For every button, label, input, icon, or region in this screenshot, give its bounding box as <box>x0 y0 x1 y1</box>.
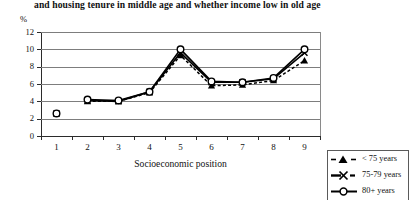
x-axis-tick <box>41 136 42 140</box>
y-axis-tick-label: 4 <box>12 97 34 106</box>
y-axis-tick <box>37 49 41 50</box>
legend-marker-x-icon <box>330 168 362 183</box>
legend-label-0: < 75 years <box>362 153 397 165</box>
x-axis-tick-label: 1 <box>45 142 69 152</box>
x-axis-tick <box>258 136 259 140</box>
data-point <box>301 57 308 63</box>
legend-marker-triangle-icon <box>330 152 362 167</box>
y-axis-tick-label: 12 <box>12 28 34 37</box>
plot-right-border <box>320 32 321 137</box>
y-axis-tick <box>37 101 41 102</box>
y-axis-tick-label: 10 <box>12 45 34 54</box>
y-axis-tick-label: 0 <box>12 132 34 141</box>
y-axis-tick <box>37 119 41 120</box>
chart-figure: and housing tenure in middle age and whe… <box>0 0 410 200</box>
legend-item-2[interactable]: 80+ years <box>328 184 408 199</box>
x-axis-tick-label: 4 <box>138 142 162 152</box>
x-axis-tick-label: 3 <box>107 142 131 152</box>
series-lines <box>41 32 320 136</box>
plot-area <box>41 32 320 136</box>
x-axis-tick <box>196 136 197 140</box>
data-point <box>115 97 122 104</box>
data-point <box>270 75 277 82</box>
y-axis-tick <box>37 32 41 33</box>
legend-label-1: 75-79 years <box>362 169 401 181</box>
x-axis-tick-label: 7 <box>231 142 255 152</box>
data-point <box>208 78 215 85</box>
x-axis-tick <box>227 136 228 140</box>
data-point <box>301 46 308 53</box>
figure-title: and housing tenure in middle age and whe… <box>34 0 404 11</box>
legend-item-0[interactable]: < 75 years <box>328 152 408 167</box>
x-axis-tick <box>103 136 104 140</box>
y-axis-tick <box>37 67 41 68</box>
x-axis-line <box>41 136 321 137</box>
data-point <box>53 110 60 117</box>
series-1 <box>54 50 308 117</box>
y-axis-tick-label: 8 <box>12 62 34 71</box>
y-axis-tick-label: 6 <box>12 80 34 89</box>
x-axis-tick <box>320 136 321 140</box>
legend: < 75 years 75-79 years 80+ years <box>327 150 409 200</box>
data-point <box>177 46 184 53</box>
y-axis-tick <box>37 84 41 85</box>
x-axis-tick <box>165 136 166 140</box>
legend-label-2: 80+ years <box>362 185 395 197</box>
data-point <box>146 89 153 96</box>
x-axis-tick <box>134 136 135 140</box>
series-0 <box>53 52 308 116</box>
y-axis-tick-label: 2 <box>12 114 34 123</box>
data-point <box>84 96 91 103</box>
data-point <box>239 79 246 86</box>
x-axis-title: Socioeconomic position <box>41 158 320 169</box>
x-axis-tick <box>289 136 290 140</box>
x-axis-tick-label: 6 <box>200 142 224 152</box>
x-axis-tick-label: 5 <box>169 142 193 152</box>
y-axis-unit-label: % <box>20 14 27 24</box>
legend-item-1[interactable]: 75-79 years <box>328 168 408 183</box>
legend-marker-circle-icon <box>330 184 362 199</box>
x-axis-tick-label: 9 <box>293 142 317 152</box>
x-axis-tick-label: 2 <box>76 142 100 152</box>
x-axis-tick <box>72 136 73 140</box>
x-axis-tick-label: 8 <box>262 142 286 152</box>
